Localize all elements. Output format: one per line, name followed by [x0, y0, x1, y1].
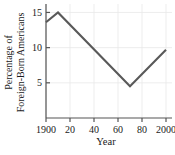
line-chart-plot: 15 10 5 1900 20 40 60 80 2000 — [0, 0, 175, 155]
x-tick-label-2000: 2000 — [156, 124, 175, 135]
x-axis-title: Year — [40, 136, 172, 147]
x-tick-label-1900: 1900 — [36, 124, 56, 135]
x-tick-label-1940: 40 — [89, 124, 99, 135]
x-tick-label-1960: 60 — [113, 124, 123, 135]
data-line-foreign-born-percentage — [46, 12, 166, 86]
horizontal-gridlines — [46, 12, 172, 82]
x-tick-label-1980: 80 — [137, 124, 147, 135]
y-tick-label-5: 5 — [37, 77, 42, 88]
y-tick-label-15: 15 — [32, 7, 42, 18]
x-tick-label-1920: 20 — [65, 124, 75, 135]
chart-figure: 15 10 5 1900 20 40 60 80 2000 Percentage… — [0, 0, 175, 155]
y-tick-label-10: 10 — [32, 42, 42, 53]
